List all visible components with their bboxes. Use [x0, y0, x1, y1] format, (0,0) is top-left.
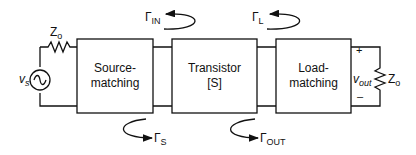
output-voltage-label: vout: [353, 72, 372, 88]
load-matching-label: Load-matching: [276, 61, 351, 91]
gamma-l-label: ΓL: [252, 10, 264, 26]
minus-sign: –: [357, 90, 363, 102]
load-impedance-label: Zo: [388, 72, 400, 88]
gamma-in-label: ΓIN: [145, 10, 161, 26]
source-resistor: [40, 42, 77, 52]
source-impedance-label: Zo: [50, 25, 62, 41]
gamma-out-label: ΓOUT: [260, 131, 286, 147]
source-voltage-label: vs: [19, 72, 30, 88]
amplifier-block-diagram: Zo vs Source-matching Transistor[S] Load…: [0, 0, 416, 155]
gamma-out-arrow: [231, 119, 258, 138]
gamma-in-arrow: [164, 14, 195, 29]
gamma-l-arrow: [267, 14, 300, 29]
gamma-s-arrow: [123, 119, 152, 138]
transistor-label: Transistor[S]: [172, 61, 257, 91]
gamma-s-label: ΓS: [154, 131, 167, 147]
plus-sign: +: [356, 44, 362, 56]
source-matching-label: Source-matching: [77, 61, 153, 91]
